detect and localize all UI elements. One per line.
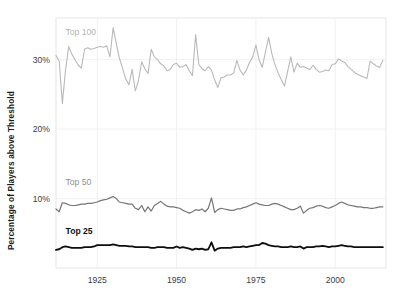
plot-border xyxy=(56,18,386,268)
series-line-top-25 xyxy=(56,242,383,250)
y-gridlines xyxy=(56,60,386,199)
series-line-top-50 xyxy=(56,196,383,213)
chart-container: 30%20%10% 1925195019752000 Top 100Top 50… xyxy=(0,0,407,302)
series-label-top-25: Top 25 xyxy=(66,226,93,236)
x-gridlines xyxy=(97,18,335,268)
y-axis-title: Percentage of Players above Threshold xyxy=(7,91,16,250)
y-tick-label: 10% xyxy=(33,194,51,204)
series-line-top-100 xyxy=(56,28,383,104)
x-tick-label: 1950 xyxy=(167,275,186,285)
y-tick-label: 30% xyxy=(33,55,51,65)
data-series-group xyxy=(56,28,383,251)
x-tick-label: 1925 xyxy=(88,275,107,285)
series-label-top-50: Top 50 xyxy=(66,177,92,187)
x-tick-label: 1975 xyxy=(246,275,265,285)
series-label-top-100: Top 100 xyxy=(66,27,97,37)
x-tick-label: 2000 xyxy=(326,275,345,285)
plot-frame xyxy=(56,18,386,268)
line-chart-svg: 30%20%10% 1925195019752000 Top 100Top 50… xyxy=(0,0,407,302)
y-axis-tick-labels: 30%20%10% xyxy=(33,55,51,204)
x-axis-tick-labels: 1925195019752000 xyxy=(88,275,345,285)
y-tick-label: 20% xyxy=(33,124,51,134)
